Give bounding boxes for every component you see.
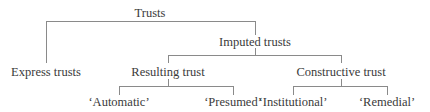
connector-resulting bbox=[120, 87, 234, 96]
node-trusts: Trusts bbox=[135, 7, 166, 20]
connector-imputed bbox=[169, 56, 342, 64]
node-remedial: ‘Remedial’ bbox=[359, 96, 415, 109]
node-automatic: ‘Automatic’ bbox=[88, 96, 149, 109]
node-presumed: ‘Presumed’ bbox=[204, 96, 262, 109]
node-express-trusts: Express trusts bbox=[11, 66, 81, 79]
connector-constructive bbox=[294, 87, 388, 96]
node-constructive-trust: Constructive trust bbox=[296, 66, 385, 79]
node-institutional: ‘Institutional’ bbox=[259, 96, 328, 109]
node-resulting-trust: Resulting trust bbox=[131, 66, 204, 79]
trusts-classification-diagram: Trusts Express trusts Imputed trusts Res… bbox=[0, 0, 430, 112]
node-imputed-trusts: Imputed trusts bbox=[219, 36, 291, 49]
